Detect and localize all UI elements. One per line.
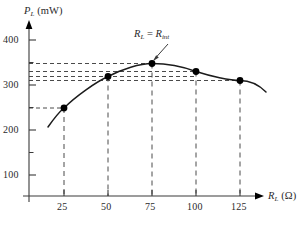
x-axis-title: RL(Ω)	[268, 191, 296, 202]
vertical-guide-lines	[64, 64, 240, 197]
annotation-symbol-rint: R	[156, 28, 162, 39]
power-curve	[48, 64, 266, 128]
y-tick-label-100: 100	[3, 170, 19, 180]
annotation-arrow	[153, 44, 168, 61]
x-tick-label-125: 125	[231, 202, 247, 212]
y-axis-title-subscript: L	[30, 10, 34, 18]
x-tick-label-25: 25	[57, 202, 67, 212]
y-tick-label-400: 400	[3, 35, 19, 45]
data-point-75-350	[149, 60, 156, 67]
annotation-arrowhead	[153, 55, 159, 61]
horizontal-guide-lines	[29, 64, 240, 109]
data-point-125-311	[237, 77, 244, 84]
x-axis-ticks	[64, 190, 240, 196]
x-axis-title-subscript: L	[274, 195, 278, 203]
x-tick-label-100: 100	[187, 202, 203, 212]
annotation-subscript-int: int	[162, 33, 169, 41]
annotation-equals: =	[144, 28, 155, 39]
data-point-25-250	[61, 105, 68, 112]
axes	[23, 20, 264, 202]
x-tick-label-75: 75	[145, 202, 155, 212]
x-axis-arrowhead	[255, 193, 264, 200]
y-axis-title-unit: (mW)	[37, 5, 62, 16]
y-axis-ticks	[29, 40, 36, 175]
y-axis-arrowhead	[26, 20, 33, 29]
annotation-subscript-l: L	[140, 33, 144, 41]
data-point-100-332	[193, 68, 200, 75]
x-tick-label-50: 50	[101, 202, 111, 212]
y-tick-label-300: 300	[3, 80, 19, 90]
data-point-50-320	[105, 73, 112, 80]
chart-figure: PL(mW) RL(Ω) 400 300 200 100 25 50 75 10…	[0, 0, 304, 239]
annotation-rl-equals-rint: RL = Rint	[134, 29, 169, 40]
annotation-arrow-line	[156, 44, 169, 58]
y-tick-label-200: 200	[3, 125, 19, 135]
x-axis-title-unit: (Ω)	[281, 190, 296, 201]
y-axis-title: PL(mW)	[24, 6, 62, 17]
